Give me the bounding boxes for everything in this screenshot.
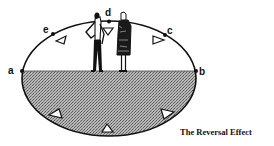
- label-b: b: [199, 66, 205, 77]
- label-c: c: [167, 25, 173, 36]
- arrow-triangle-c: [153, 36, 164, 44]
- label-e: e: [43, 24, 49, 35]
- woman-figure: [117, 12, 131, 72]
- label-a: a: [8, 65, 14, 76]
- man-figure: [86, 13, 104, 73]
- point-e: [51, 32, 55, 36]
- arrow-triangle-e: [56, 36, 66, 44]
- point-d: [107, 20, 111, 24]
- reversal-effect-diagram: a b c d e: [0, 0, 274, 146]
- diagram-caption: The Reversal Effect: [180, 127, 252, 137]
- point-b: [194, 69, 198, 73]
- point-a: [20, 69, 24, 73]
- label-d: d: [105, 7, 111, 18]
